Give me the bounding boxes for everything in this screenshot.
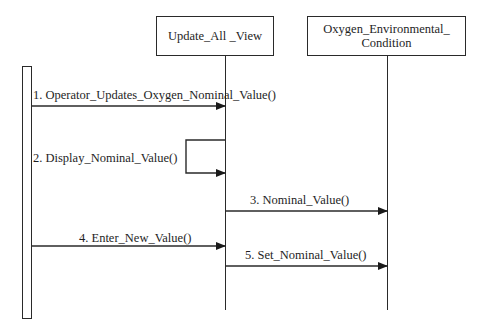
message-3-label: 3. Nominal_Value() xyxy=(250,193,349,207)
message-4-label: 4. Enter_New_Value() xyxy=(79,231,191,245)
message-1-label: 1. Operator_Updates_Oxygen_Nominal_Value… xyxy=(33,88,276,102)
participant-update-all-view: Update_All _View xyxy=(156,16,274,56)
message-2-self-loop-arrow xyxy=(186,140,225,173)
participant-label: Oxygen_Environmental_ Condition xyxy=(323,22,449,50)
participant-label: Update_All _View xyxy=(168,29,262,43)
participant-oxygen-environmental-condition: Oxygen_Environmental_ Condition xyxy=(307,16,466,56)
message-5-label: 5. Set_Nominal_Value() xyxy=(245,248,367,262)
sequence-diagram: Update_All _View Oxygen_Environmental_ C… xyxy=(0,0,486,336)
actor-activation-bar xyxy=(22,66,32,319)
message-2-label: 2. Display_Nominal_Value() xyxy=(33,151,177,165)
lifeline-oxygen-environmental-condition xyxy=(387,56,388,310)
